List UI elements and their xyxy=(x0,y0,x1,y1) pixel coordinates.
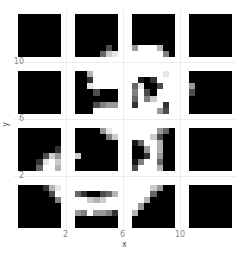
pixel-cell xyxy=(55,51,61,57)
pixel-cell xyxy=(55,222,61,228)
image-panel-r2-c0 xyxy=(18,128,61,171)
gridline-horizontal xyxy=(14,62,236,63)
x-tick-6: 6 xyxy=(120,231,125,239)
facet-heatmap-plot: 10 6 2 2 6 10 x y xyxy=(0,0,245,253)
pixel-cell xyxy=(112,51,118,57)
gridline-vertical xyxy=(123,10,124,232)
image-panel-r0-c0 xyxy=(18,14,61,57)
pixel-cell xyxy=(169,108,175,114)
image-panel-r0-c2 xyxy=(132,14,175,57)
pixel-cell xyxy=(226,51,232,57)
pixel-cell xyxy=(55,108,61,114)
pixel-cell xyxy=(112,165,118,171)
image-panel-r1-c3 xyxy=(189,71,232,114)
image-panel-r2-c3 xyxy=(189,128,232,171)
gridline-horizontal xyxy=(14,119,236,120)
pixel-cell xyxy=(226,165,232,171)
x-axis-label: x xyxy=(122,240,127,249)
pixel-cell xyxy=(226,108,232,114)
pixel-cell xyxy=(169,51,175,57)
pixel-cell xyxy=(169,165,175,171)
pixel-cell xyxy=(169,222,175,228)
y-tick-10: 10 xyxy=(2,58,24,66)
pixel-cell xyxy=(226,222,232,228)
image-panel-r3-c1 xyxy=(75,185,118,228)
pixel-cell xyxy=(55,165,61,171)
x-tick-2: 2 xyxy=(63,231,68,239)
image-panel-r2-c2 xyxy=(132,128,175,171)
pixel-cell xyxy=(112,108,118,114)
gridline-vertical xyxy=(66,10,67,232)
image-panel-r0-c3 xyxy=(189,14,232,57)
gridline-horizontal xyxy=(14,176,236,177)
image-panel-r1-c2 xyxy=(132,71,175,114)
image-panel-r1-c0 xyxy=(18,71,61,114)
y-tick-2: 2 xyxy=(2,172,24,180)
gridline-vertical xyxy=(180,10,181,232)
image-panel-r1-c1 xyxy=(75,71,118,114)
image-panel-r2-c1 xyxy=(75,128,118,171)
image-panel-r3-c3 xyxy=(189,185,232,228)
pixel-cell xyxy=(112,222,118,228)
image-panel-r0-c1 xyxy=(75,14,118,57)
image-panel-r3-c0 xyxy=(18,185,61,228)
image-panel-r3-c2 xyxy=(132,185,175,228)
x-tick-10: 10 xyxy=(175,231,185,239)
y-axis-label: y xyxy=(1,122,10,127)
